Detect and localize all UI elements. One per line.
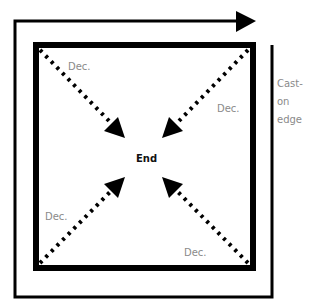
end-label: End (136, 153, 157, 164)
decrease-label-top-left: Dec. (68, 61, 91, 72)
decrease-line-bottom-left (40, 190, 112, 263)
direction-arrowhead-icon (236, 11, 256, 32)
knitting-diagram (0, 0, 319, 306)
cast-on-edge-line-3: edge (277, 111, 317, 129)
decrease-label-bottom-left: Dec. (45, 211, 68, 222)
decrease-label-top-right: Dec. (217, 103, 240, 114)
cast-on-edge-label: Cast- on edge (277, 75, 317, 129)
cast-on-edge-line-2: on (277, 93, 317, 111)
arrow-bottom-left-icon (104, 177, 125, 198)
decrease-label-bottom-right: Dec. (184, 247, 207, 258)
cast-on-edge-line-1: Cast- (277, 75, 317, 93)
